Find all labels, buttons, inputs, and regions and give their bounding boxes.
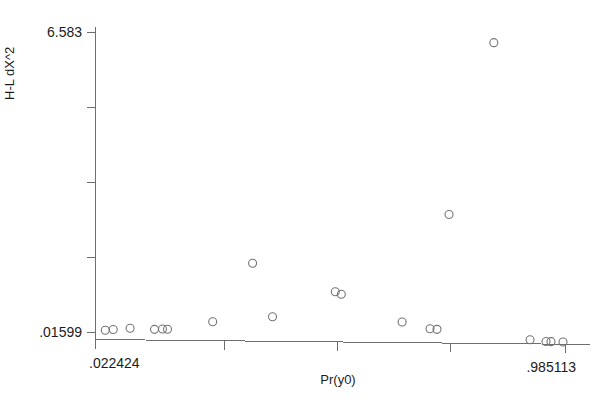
data-point	[164, 325, 172, 333]
data-point	[109, 325, 117, 333]
x-axis-line	[96, 340, 591, 345]
data-point	[490, 39, 498, 47]
data-point	[559, 338, 567, 346]
data-point	[445, 210, 453, 218]
data-point	[209, 318, 217, 326]
x-axis-max-tick-label: .985113	[526, 359, 576, 375]
data-point	[269, 313, 277, 321]
x-axis-title: Pr(y0)	[320, 372, 355, 387]
y-axis-min-tick-label: .01599	[39, 324, 82, 340]
data-point	[249, 259, 257, 267]
y-axis-title: H-L dX^2	[2, 47, 17, 100]
data-point	[398, 318, 406, 326]
data-point-group	[101, 39, 567, 346]
scatter-plot: 6.583 .01599 .022424 .985113 Pr(y0) H-L …	[0, 0, 602, 410]
data-point	[126, 324, 134, 332]
data-point	[101, 326, 109, 334]
x-axis-min-tick-label: .022424	[89, 355, 140, 371]
data-point	[526, 336, 534, 344]
y-axis-ticks	[87, 33, 95, 333]
y-axis-max-tick-label: 6.583	[47, 24, 82, 40]
data-point	[151, 325, 159, 333]
chart-page: 6.583 .01599 .022424 .985113 Pr(y0) H-L …	[0, 0, 602, 410]
